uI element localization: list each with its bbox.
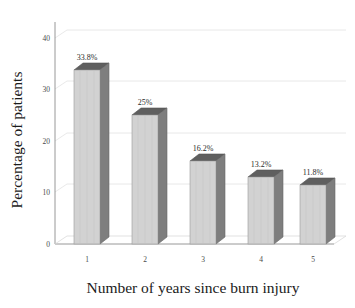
bar-side-2 [158,108,167,244]
y-tick-label-20: 20 [43,137,51,146]
bar-side-5 [326,178,335,244]
bar-group-2: 25% [132,98,167,244]
chart-canvas: 40 30 20 10 0 33.8% [0,0,355,308]
x-tick-label-1: 1 [85,255,89,264]
y-tick-label-0: 0 [46,240,50,249]
y-tick-label-10: 10 [43,188,51,197]
y-tick-label-40: 40 [43,34,51,43]
bar-group-3: 16.2% [190,144,225,244]
x-tick-label-5: 5 [311,255,315,264]
bar-group-1: 33.8% [74,53,109,244]
bar-chart-figure: 40 30 20 10 0 33.8% [0,0,355,308]
x-axis-title: Number of years since burn injury [86,279,299,296]
bar-group-4: 13.2% [248,160,283,244]
y-tick-label-30: 30 [43,85,51,94]
bar-value-label-5: 11.8% [303,168,324,177]
x-tick-label-3: 3 [201,255,205,264]
bar-value-label-2: 25% [138,98,153,107]
bar-side-4 [274,170,283,244]
bar-side-3 [216,154,225,244]
y-axis-title: Percentage of patients [8,72,25,209]
bar-value-label-4: 13.2% [251,160,272,169]
x-tick-label-2: 2 [143,255,147,264]
x-tick-label-4: 4 [259,255,263,264]
bar-value-label-3: 16.2% [193,144,214,153]
bar-value-label-1: 33.8% [77,53,98,62]
chart-background [0,0,355,308]
bar-side-1 [100,63,109,244]
